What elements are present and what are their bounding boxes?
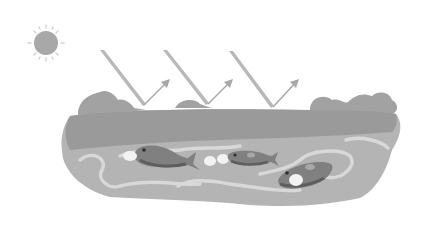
light-rays bbox=[100, 50, 299, 108]
bubble-icon bbox=[123, 151, 137, 161]
incoming-ray-2 bbox=[163, 50, 209, 105]
fish-eye bbox=[142, 148, 146, 152]
bubble-icon bbox=[204, 156, 216, 166]
incoming-ray-3 bbox=[229, 51, 274, 108]
bubble-icon bbox=[217, 154, 229, 164]
ocean-illustration bbox=[0, 0, 428, 237]
sun-icon bbox=[28, 25, 64, 61]
fish-eye bbox=[285, 171, 289, 175]
fish-eye bbox=[233, 153, 236, 156]
bubble-icon bbox=[289, 174, 303, 186]
